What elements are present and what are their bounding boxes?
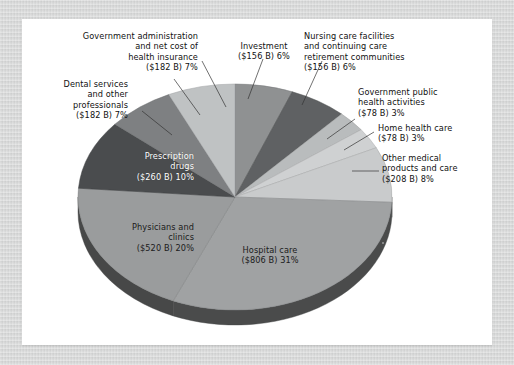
label-prescription-drugs: Prescription drugs ($260 B) 10%: [84, 151, 194, 182]
label-government-public-health: Government public health activities ($78…: [358, 87, 468, 118]
label-physicians-clinics: Physicians and clinics ($520 B) 20%: [74, 222, 194, 253]
label-dental-services: Dental services and other professionals …: [32, 79, 128, 121]
chart-card: Government administration and net cost o…: [22, 19, 492, 345]
label-other-medical-products: Other medical products and care ($208 B)…: [382, 153, 486, 184]
label-investment: Investment ($156 B) 6%: [218, 41, 310, 62]
scan-artifact-dot: [382, 242, 384, 244]
label-government-administration: Government administration and net cost o…: [58, 31, 198, 73]
pie-chart: Government administration and net cost o…: [22, 19, 492, 345]
label-nursing-care: Nursing care facilities and continuing c…: [304, 31, 428, 73]
label-home-health-care: Home health care ($78 B) 3%: [378, 123, 486, 144]
label-hospital-care: Hospital care ($806 B) 31%: [218, 245, 322, 266]
